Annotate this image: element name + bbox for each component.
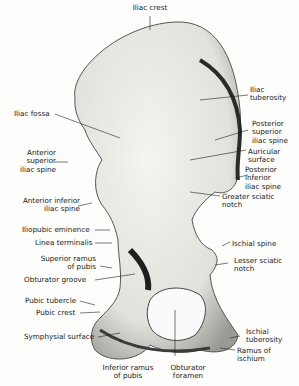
label-iliac-fossa: Iliac fossa [14,110,50,118]
label-ischial-spine: Ischial spine [232,240,276,248]
label-ischial-tuberosity: Ischial tuberosity [246,328,282,345]
label-superior-ramus-of-pubis: Superior ramus of pubis [20,255,96,272]
label-iliac-tuberosity: Iliac tuberosity [250,86,286,103]
label-pubic-crest: Pubic crest [36,309,75,317]
label-symphysial-surface: Symphysial surface [24,333,94,341]
label-iliac-crest: Iliac crest [120,4,180,12]
label-pubic-tubercle: Pubic tubercle [25,297,76,305]
label-auricular-surface: Auricular surface [248,148,280,165]
label-lesser-sciatic-notch: Lesser sciatic notch [234,257,282,274]
label-inferior-ramus-of-pubis: Inferior ramus of pubis [98,364,158,381]
label-posterior-superior-iliac-spine: Posterior superior iliac spine [252,120,288,145]
label-obturator-foramen: Obturator foramen [166,364,210,381]
label-posterior-inferior-iliac-spine: Posterior inferior iliac spine [245,166,281,191]
label-linea-terminalis: Linea terminalis [35,239,92,247]
label-ramus-of-ischium: Ramus of ischium [237,347,271,364]
label-anterior-superior-iliac-spine: Anterior superior iliac spine [6,149,56,174]
label-anterior-inferior-iliac-spine: Anterior inferior iliac spine [4,197,80,214]
hip-bone-figure: Iliac crest Iliac fossa Iliac tuberosity… [0,0,299,386]
label-greater-sciatic-notch: Greater sciatic notch [222,193,275,210]
label-iliopubic-eminence: Iliopubic eminence [22,226,90,234]
label-obturator-groove: Obturator groove [24,276,86,284]
